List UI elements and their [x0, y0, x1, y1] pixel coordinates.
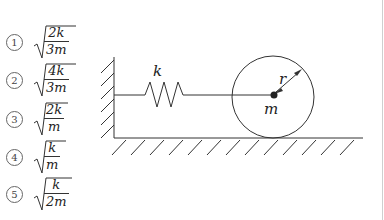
- spring: [114, 82, 274, 107]
- floor-hatching: [112, 140, 354, 155]
- spring-mass-figure: [0, 0, 384, 220]
- spring-constant-label: k: [153, 62, 162, 80]
- wall-hatching: [101, 60, 114, 138]
- radius-label: r: [279, 70, 286, 88]
- center-dot: [271, 92, 278, 99]
- mass-label: m: [264, 100, 278, 118]
